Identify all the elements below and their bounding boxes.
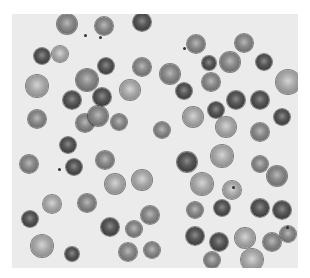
red-blood-cell xyxy=(132,170,152,190)
red-blood-cell xyxy=(154,122,170,138)
red-blood-cell xyxy=(256,54,272,70)
red-blood-cell xyxy=(52,46,68,62)
red-blood-cell xyxy=(95,17,113,35)
platelet xyxy=(183,47,186,50)
red-blood-cell xyxy=(267,166,287,186)
red-blood-cell xyxy=(31,235,53,257)
red-blood-cell xyxy=(66,159,82,175)
red-blood-cell xyxy=(65,247,79,261)
red-blood-cell xyxy=(63,91,81,109)
platelet xyxy=(58,168,61,171)
red-blood-cell xyxy=(133,14,151,31)
red-blood-cell xyxy=(26,75,48,97)
red-blood-cell xyxy=(96,151,114,169)
red-blood-cell xyxy=(57,14,77,34)
red-blood-cell xyxy=(235,228,255,248)
red-blood-cell xyxy=(204,252,220,268)
red-blood-cell xyxy=(276,70,298,94)
red-blood-cell xyxy=(220,52,240,72)
red-blood-cell xyxy=(119,243,137,261)
red-blood-cell xyxy=(202,73,220,91)
red-blood-cell xyxy=(160,64,180,84)
red-blood-cell xyxy=(141,206,159,224)
red-blood-cell xyxy=(263,233,281,251)
red-blood-cell xyxy=(76,69,98,91)
red-blood-cell xyxy=(60,137,76,153)
red-blood-cell xyxy=(235,34,253,52)
red-blood-cell xyxy=(214,200,230,216)
blood-cell-micrograph xyxy=(12,14,298,268)
platelet xyxy=(232,186,235,189)
red-blood-cell xyxy=(93,88,111,106)
red-blood-cell xyxy=(28,110,46,128)
red-blood-cell xyxy=(177,152,197,172)
red-blood-cell xyxy=(22,211,38,227)
red-blood-cell xyxy=(133,58,151,76)
red-blood-cell xyxy=(208,102,224,118)
red-blood-cell xyxy=(252,156,268,172)
red-blood-cell xyxy=(251,199,269,217)
red-blood-cell xyxy=(274,109,290,125)
red-blood-cell xyxy=(126,221,142,237)
red-blood-cell xyxy=(20,155,38,173)
red-blood-cell xyxy=(105,174,125,194)
red-blood-cell xyxy=(120,80,140,100)
red-blood-cell xyxy=(43,195,61,213)
red-blood-cell xyxy=(186,227,204,245)
red-blood-cell xyxy=(191,173,213,195)
red-blood-cell xyxy=(176,83,192,99)
red-blood-cell xyxy=(34,48,50,64)
red-blood-cell xyxy=(88,106,108,126)
red-blood-cell xyxy=(211,145,233,167)
red-blood-cell xyxy=(187,202,203,218)
platelet xyxy=(286,226,289,229)
red-blood-cell xyxy=(273,201,291,219)
red-blood-cell xyxy=(144,242,160,258)
red-blood-cell xyxy=(202,56,216,70)
red-blood-cell xyxy=(98,58,114,74)
red-blood-cell xyxy=(183,107,203,127)
red-blood-cell xyxy=(223,181,241,199)
platelet xyxy=(84,34,87,37)
red-blood-cell xyxy=(251,123,269,141)
red-blood-cell xyxy=(216,117,236,137)
red-blood-cell xyxy=(111,114,127,130)
platelet xyxy=(99,36,102,39)
red-blood-cell xyxy=(251,91,269,109)
red-blood-cell xyxy=(187,35,205,53)
red-blood-cell xyxy=(210,233,228,251)
red-blood-cell xyxy=(227,91,245,109)
red-blood-cell xyxy=(101,218,119,236)
red-blood-cell xyxy=(78,194,96,212)
red-blood-cell xyxy=(241,249,263,268)
